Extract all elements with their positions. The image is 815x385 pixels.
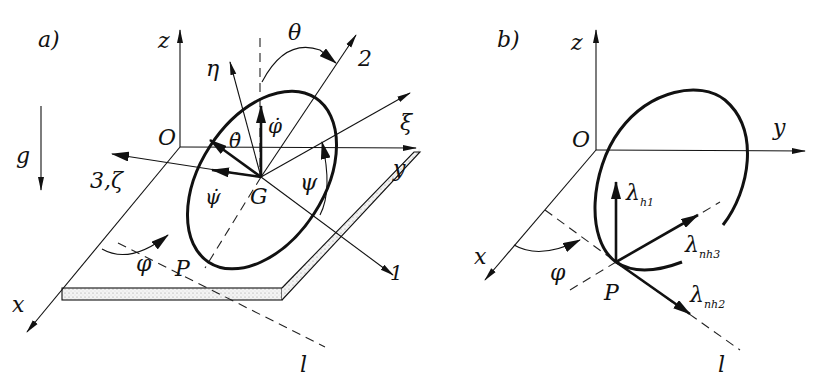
eta-axis (230, 62, 261, 177)
theta-dot-label: θ̇ (229, 129, 241, 153)
gravity-label: g (16, 143, 30, 168)
line-l-label: l (300, 352, 307, 377)
svg-text:nh3: nh3 (699, 248, 720, 261)
xi-label: ξ (400, 110, 414, 135)
lambda-nh2-label: λ nh2 (689, 282, 725, 311)
fixed-axes-b: z y x O (474, 30, 805, 280)
origin-label: O (158, 125, 176, 150)
line-l-label-b: l (718, 352, 725, 377)
z-label-b: z (570, 30, 583, 55)
y-label: y (392, 156, 406, 181)
x-label: x (12, 292, 25, 317)
disk-curve-b (595, 90, 747, 262)
axis-3-zeta-label: 3,ζ (90, 168, 125, 193)
origin-label-b: O (572, 127, 590, 152)
panel-a-label: a) (38, 27, 60, 52)
contact-P-label: P (174, 256, 191, 281)
axis-2-label: 2 (357, 46, 372, 71)
contact-P-label-b: P (603, 280, 620, 305)
theta-arc (262, 47, 336, 82)
rolling-disk-diagram: a) g z y x O l (0, 0, 815, 385)
y-axis-b (596, 150, 805, 151)
panel-b-label: b) (497, 27, 520, 52)
x-label-b: x (474, 244, 487, 269)
lambda-nh3-label: λ nh3 (684, 232, 720, 261)
svg-text:h1: h1 (640, 196, 654, 209)
svg-text:λ: λ (625, 180, 640, 205)
phi-label: φ (136, 251, 152, 276)
z-label: z (157, 28, 170, 53)
dashed-perp-b (545, 210, 616, 262)
y-axis (180, 147, 416, 148)
phi-label-b: φ (550, 260, 566, 285)
axis-2 (261, 35, 356, 177)
panel-a: a) g z y x O l (12, 20, 420, 377)
panel-b: b) z y x O l φ λ h1 λ (474, 27, 805, 377)
psi-dot-label: ψ̇ (205, 185, 221, 209)
svg-text:λ: λ (684, 232, 699, 257)
gravity-arrow: g (16, 106, 41, 190)
lambda-h1-label: λ h1 (625, 180, 654, 209)
x-axis-b (485, 150, 596, 280)
theta-label: θ (288, 20, 301, 45)
eta-label: η (206, 56, 219, 81)
angular-rate-vectors: φ̇ θ̇ ψ̇ (205, 106, 282, 209)
svg-text:λ: λ (689, 282, 704, 307)
axis-1-label: 1 (390, 261, 403, 285)
center-G-label: G (250, 184, 268, 209)
psi-label: ψ (300, 170, 318, 195)
phi-dot-label: φ̇ (268, 114, 282, 138)
phi-arc-b (514, 240, 580, 251)
y-label-b: y (772, 115, 786, 140)
body-axes: η 2 ξ 1 3,ζ (90, 35, 414, 285)
svg-text:nh2: nh2 (704, 298, 725, 311)
